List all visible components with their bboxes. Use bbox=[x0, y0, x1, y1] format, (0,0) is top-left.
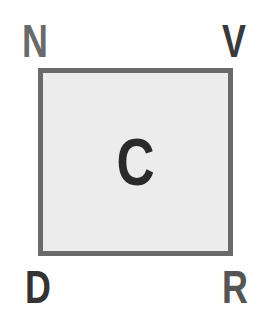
label-top-left: N bbox=[22, 18, 48, 64]
center-square: C bbox=[38, 68, 233, 256]
label-bottom-right: R bbox=[222, 264, 248, 310]
label-center: C bbox=[62, 129, 210, 195]
label-bottom-left: D bbox=[25, 264, 51, 310]
label-top-right: V bbox=[222, 18, 246, 64]
